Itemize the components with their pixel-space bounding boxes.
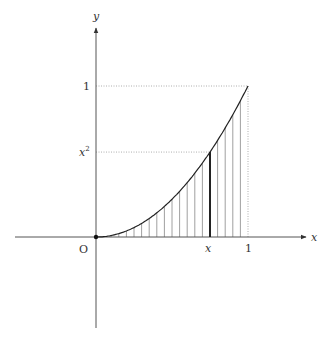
x-tick-label: x bbox=[205, 242, 212, 255]
hatch-lines bbox=[104, 101, 241, 237]
y-axis-label: y bbox=[92, 10, 100, 23]
x-axis-label: x bbox=[311, 231, 318, 244]
diagram-canvas: y x O x 1 1 x2 bbox=[0, 0, 328, 343]
y-tick-one-label: 1 bbox=[83, 80, 90, 93]
origin-point bbox=[94, 235, 98, 239]
y-tick-x-squared-label: x2 bbox=[79, 145, 90, 159]
origin-label: O bbox=[79, 243, 88, 256]
x-tick-one-label: 1 bbox=[245, 242, 252, 255]
